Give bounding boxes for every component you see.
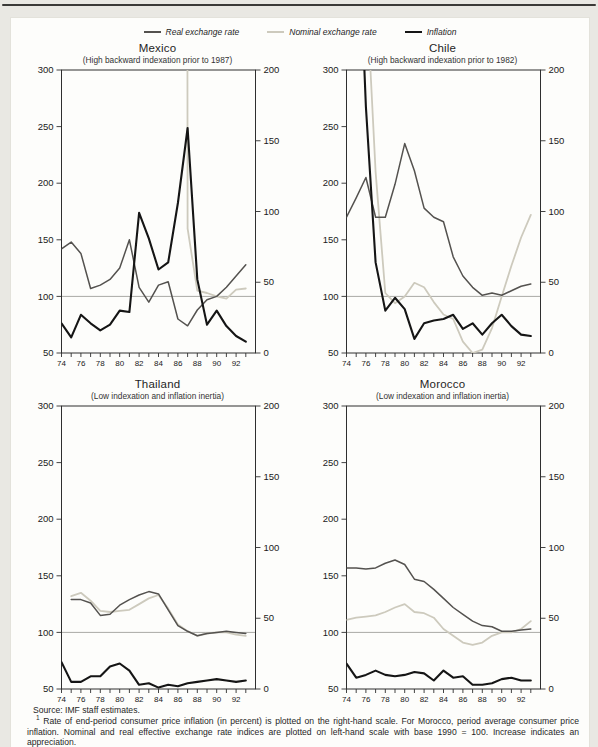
- legend-label: Real exchange rate: [166, 27, 240, 37]
- x-tick-label: 86: [173, 359, 182, 368]
- y-right-tick-label: 50: [263, 612, 274, 623]
- y-left-tick-label: 100: [37, 291, 53, 302]
- y-right-tick-label: 200: [263, 66, 279, 75]
- y-left-tick-label: 200: [37, 177, 53, 188]
- y-left-tick-label: 200: [322, 513, 338, 524]
- x-tick-label: 90: [212, 359, 221, 368]
- y-left-tick-label: 100: [322, 627, 338, 638]
- x-tick-label: 84: [439, 695, 448, 704]
- y-right-tick-label: 100: [263, 206, 279, 217]
- x-tick-label: 74: [342, 695, 351, 704]
- y-right-tick-label: 150: [548, 471, 564, 482]
- y-left-tick-label: 250: [322, 121, 338, 132]
- x-tick-label: 86: [173, 695, 182, 704]
- panel-plot-chile: 3002502001501005020015010050074767880828…: [312, 66, 574, 372]
- x-tick-label: 88: [477, 359, 486, 368]
- legend-item-nominal: Nominal exchange rate: [267, 27, 376, 37]
- x-tick-label: 90: [212, 695, 221, 704]
- series-group: [346, 560, 530, 685]
- x-tick-label: 92: [231, 695, 240, 704]
- legend-line-swatch-real: [144, 31, 161, 33]
- x-tick-label: 74: [57, 695, 66, 704]
- series-line-nominal: [346, 604, 530, 645]
- plot-border: [61, 70, 255, 353]
- y-right-tick-label: 50: [263, 276, 274, 287]
- panel-plot-mexico: 3002502001501005020015010050074767880828…: [27, 66, 289, 372]
- panel-plot-thailand: 3002502001501005020015010050074767880828…: [27, 402, 289, 708]
- y-left-tick-label: 50: [42, 347, 53, 358]
- x-tick-label: 82: [134, 359, 143, 368]
- x-tick-label: 88: [192, 695, 201, 704]
- series-line-inflation: [61, 662, 245, 688]
- series-line-nominal: [177, 66, 245, 299]
- y-right-tick-label: 50: [548, 276, 559, 287]
- y-right-tick-label: 100: [263, 542, 279, 553]
- y-right-tick-label: 0: [548, 683, 553, 694]
- series-group: [61, 66, 245, 342]
- series-line-real: [346, 560, 530, 631]
- y-left-tick-label: 100: [37, 627, 53, 638]
- top-rule: [2, 4, 596, 6]
- series-line-real: [71, 592, 246, 636]
- x-tick-label: 76: [361, 359, 370, 368]
- figure-card: Real exchange rate Nominal exchange rate…: [10, 17, 590, 747]
- y-left-tick-label: 300: [322, 66, 338, 75]
- legend-label: Inflation: [427, 27, 457, 37]
- panel-title: Chile: [300, 42, 585, 55]
- x-tick-label: 82: [419, 695, 428, 704]
- x-tick-label: 84: [154, 695, 163, 704]
- x-tick-label: 82: [134, 695, 143, 704]
- x-tick-label: 88: [192, 359, 201, 368]
- plot-border: [346, 70, 540, 353]
- legend-item-real: Real exchange rate: [144, 27, 240, 37]
- footnote-text: Rate of end-period consumer price inflat…: [27, 716, 579, 747]
- y-right-tick-label: 0: [548, 347, 553, 358]
- x-tick-label: 74: [57, 359, 66, 368]
- y-left-tick-label: 250: [37, 121, 53, 132]
- x-tick-label: 76: [76, 359, 85, 368]
- y-left-tick-label: 50: [327, 347, 338, 358]
- y-right-tick-label: 150: [548, 135, 564, 146]
- source-note: Source: IMF staff estimates.: [33, 705, 579, 715]
- x-tick-label: 76: [76, 695, 85, 704]
- panel-title: Morocco: [300, 378, 585, 391]
- x-tick-label: 92: [231, 359, 240, 368]
- y-right-tick-label: 50: [548, 612, 559, 623]
- y-left-tick-label: 150: [37, 570, 53, 581]
- series-line-nominal: [365, 66, 530, 353]
- chart-legend: Real exchange rate Nominal exchange rate…: [11, 27, 589, 37]
- panel-subtitle: (High backward indexation prior to 1982): [300, 55, 585, 65]
- footnote-marker: 1: [36, 714, 40, 721]
- y-left-tick-label: 250: [37, 457, 53, 468]
- x-tick-label: 88: [477, 695, 486, 704]
- panel-subtitle: (Low indexation and inflation inertia): [300, 391, 585, 401]
- panel-subtitle: (High backward indexation prior to 1987): [15, 55, 300, 65]
- figure-footer: Source: IMF staff estimates. 1 Rate of e…: [27, 705, 579, 747]
- x-tick-label: 80: [115, 695, 124, 704]
- x-tick-label: 80: [400, 695, 409, 704]
- y-left-tick-label: 150: [322, 570, 338, 581]
- legend-line-swatch-inflation: [405, 31, 422, 34]
- y-left-tick-label: 150: [37, 234, 53, 245]
- y-left-tick-label: 200: [322, 177, 338, 188]
- y-left-tick-label: 300: [37, 66, 53, 75]
- y-left-tick-label: 150: [322, 234, 338, 245]
- series-line-real: [346, 144, 530, 296]
- y-left-tick-label: 300: [37, 402, 53, 411]
- y-left-tick-label: 100: [322, 291, 338, 302]
- x-tick-label: 86: [458, 695, 467, 704]
- x-tick-label: 82: [419, 359, 428, 368]
- series-line-inflation: [346, 66, 530, 339]
- chart-panel-chile: Chile(High backward indexation prior to …: [300, 42, 585, 372]
- y-right-tick-label: 200: [548, 66, 564, 75]
- panels-grid: Mexico(High backward indexation prior to…: [15, 42, 585, 708]
- panel-plot-morocco: 3002502001501005020015010050074767880828…: [312, 402, 574, 708]
- y-left-tick-label: 200: [37, 513, 53, 524]
- series-group: [61, 592, 245, 688]
- legend-label: Nominal exchange rate: [289, 27, 376, 37]
- y-right-tick-label: 100: [548, 206, 564, 217]
- plot-border: [346, 406, 540, 689]
- y-right-tick-label: 150: [263, 471, 279, 482]
- y-right-tick-label: 200: [263, 402, 279, 411]
- y-right-tick-label: 150: [263, 135, 279, 146]
